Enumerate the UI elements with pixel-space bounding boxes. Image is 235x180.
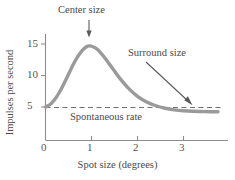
y-axis-title-text: Impulses per second (5, 49, 16, 135)
annotation-spontaneous-rate: Spontaneous rate (70, 112, 142, 123)
x-tick-label-3: 3 (179, 142, 185, 153)
y-tick-label-10: 10 (27, 69, 38, 80)
y-tick-label-15: 15 (27, 38, 38, 49)
plot-area (0, 0, 235, 180)
y-axis-title: Impulses per second (2, 40, 18, 144)
x-tick-label-2: 2 (133, 142, 139, 153)
x-tick-label-0: 0 (41, 142, 47, 153)
x-axis-title: Spot size (degrees) (0, 160, 235, 171)
center-size-arrow (86, 20, 91, 38)
surround-size-arrow (146, 62, 193, 105)
figure-response-curve: Impulses per second Spot size (degrees) … (0, 0, 235, 180)
y-tick-label-5: 5 (27, 100, 33, 111)
annotation-center-size: Center size (58, 5, 105, 16)
x-tick-label-1: 1 (87, 142, 93, 153)
annotation-surround-size: Surround size (128, 48, 186, 59)
